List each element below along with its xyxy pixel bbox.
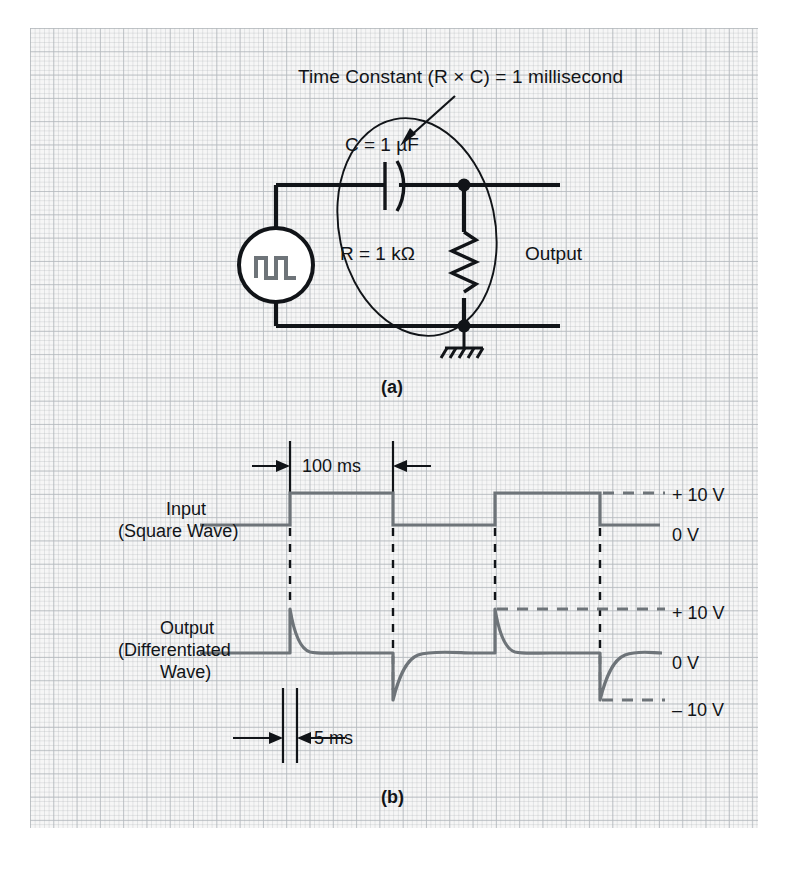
- pulse-width-label: 5 ms: [314, 728, 353, 749]
- output-terminal-label: Output: [525, 243, 582, 265]
- input-label-line2: (Square Wave): [118, 521, 238, 542]
- period-arrow-right: [393, 460, 407, 472]
- output-differentiated-trace: [200, 609, 662, 700]
- output-label-line2: (Differentiated: [118, 640, 231, 661]
- panel-a-caption: (a): [381, 377, 403, 398]
- output-zero-level-label: 0 V: [672, 653, 699, 674]
- output-low-level-label: – 10 V: [672, 700, 724, 721]
- pulse-arrow-left: [269, 732, 283, 744]
- waveform-plot: [0, 0, 798, 884]
- time-constant-note: Time Constant (R × C) = 1 millisecond: [298, 66, 623, 88]
- period-dimension-label: 100 ms: [302, 456, 361, 477]
- output-label-line1: Output: [160, 618, 214, 639]
- figure-page: Time Constant (R × C) = 1 millisecond C …: [0, 0, 798, 884]
- output-high-level-label: + 10 V: [672, 603, 725, 624]
- pulse-arrow-right: [297, 732, 311, 744]
- period-arrow-left: [276, 460, 290, 472]
- output-label-line3: Wave): [160, 662, 211, 683]
- edge-alignment-dashes: [290, 528, 600, 690]
- input-label-line1: Input: [166, 499, 206, 520]
- panel-b-caption: (b): [381, 787, 404, 808]
- input-zero-level-label: 0 V: [672, 525, 699, 546]
- pulse-width-dimension: [233, 688, 345, 763]
- capacitor-value-label: C = 1 µF: [345, 134, 419, 156]
- resistor-value-label: R = 1 kΩ: [340, 243, 415, 265]
- input-high-level-label: + 10 V: [672, 485, 725, 506]
- input-square-wave-trace: [200, 493, 660, 525]
